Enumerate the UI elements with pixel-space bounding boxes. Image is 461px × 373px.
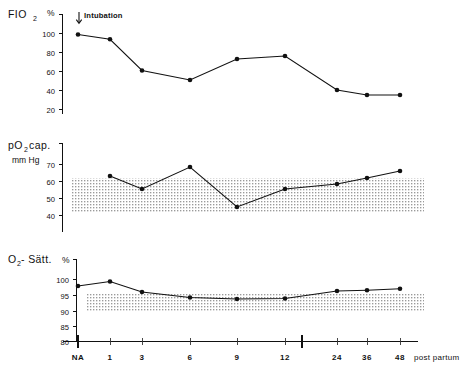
po2-ytick-60: 60 [47,178,55,187]
o2saett-unit-label: % [62,255,70,265]
fio2-ytick-80: 80 [47,49,55,58]
fio2-axis-title: FIO [8,8,27,20]
intubation-annotation: Intubation [76,11,123,23]
xtick-label-12: 12 [280,353,290,362]
fio2-ytick-60: 60 [47,68,55,77]
fio2-series-line [78,35,400,96]
o2saett-ytick-85: 85 [61,323,69,332]
xtick-label-1: 1 [108,353,113,362]
xtick-label-na: NA [72,353,85,362]
xtick-label-3: 3 [140,353,145,362]
o2saett-reference-band [86,294,424,311]
o2saett-axis-title-rest: - Sätt. [21,253,52,265]
fio2-ytick-100: 100 [42,30,55,39]
intubation-label: Intubation [84,11,123,20]
po2-reference-band [72,178,424,213]
po2-ytick-40: 40 [47,212,55,221]
o2saett-ytick-90: 90 [61,308,69,317]
po2-axis-title-subscript: 2 [24,146,28,153]
fio2-series-markers [76,32,403,97]
po2-axis-title-rest: cap. [29,139,50,151]
fio2-unit-label: % [47,8,55,18]
panel-po2: pO 2 cap. mm Hg 70 60 50 40 [8,139,424,232]
fio2-ytick-20: 20 [47,106,55,115]
panel-o2-saettigung: O 2 - Sätt. % 100 95 90 85 80 [8,253,424,347]
medical-gas-exchange-figure: FIO 2 % 100 80 60 40 20 Intubation [0,0,461,373]
o2saett-ytick-95: 95 [61,292,69,301]
xtick-label-6: 6 [188,353,193,362]
fio2-ytick-40: 40 [47,87,55,96]
po2-ytick-70: 70 [47,161,55,170]
o2saett-axis-title: O [8,253,17,265]
po2-y-ticks [59,144,63,216]
po2-unit-label: mm Hg [12,155,40,165]
xtick-label-24: 24 [332,353,342,362]
xtick-label-9: 9 [235,353,240,362]
fio2-y-ticks [59,15,63,110]
po2-ytick-50: 50 [47,195,55,204]
fio2-axis-title-subscript: 2 [33,15,37,22]
shared-x-axis: NA 1 3 6 9 12 24 36 48 post partum [63,335,460,362]
xtick-label-48: 48 [395,353,405,362]
o2saett-y-ticks [73,260,77,342]
xtick-label-36: 36 [362,353,372,362]
x-axis-tail-label: post partum [414,353,460,362]
chart-canvas: FIO 2 % 100 80 60 40 20 Intubation [0,0,461,373]
panel-fio2: FIO 2 % 100 80 60 40 20 Intubation [8,8,402,115]
po2-axis-title: pO [8,139,23,151]
o2saett-ytick-100: 100 [56,276,69,285]
